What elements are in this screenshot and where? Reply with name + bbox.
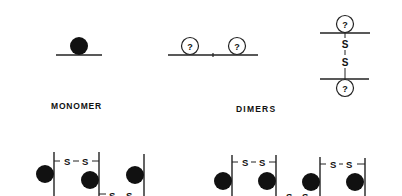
sulfur-symbol: S: [126, 190, 132, 196]
dimer-side-by-side: ? ?: [168, 38, 258, 58]
unknown-symbol: ?: [342, 20, 348, 30]
unknown-symbol: ?: [342, 84, 348, 94]
sulfur-symbol: S: [302, 191, 308, 196]
filled-circle-icon: [70, 37, 88, 55]
sulfur-symbol: S: [286, 191, 292, 196]
sulfur-symbol: S: [242, 157, 248, 168]
unknown-symbol: ?: [234, 42, 240, 52]
polymer-chain-right: S S S S S S: [214, 155, 365, 196]
sulfur-symbol: S: [82, 156, 88, 167]
monomer-label: MONOMER: [51, 101, 102, 111]
sulfur-symbol: S: [346, 159, 352, 170]
polymer-chain-left: S S S S: [36, 152, 144, 196]
dimers-label: DIMERS: [236, 104, 276, 114]
filled-circle-icon: [36, 165, 54, 183]
filled-circle-icon: [302, 173, 320, 191]
filled-circle-icon: [81, 171, 99, 189]
disulfide-polymer-diagram: MONOMER ? ? ? S S ? DIMERS S S: [0, 0, 402, 196]
sulfur-symbol: S: [330, 159, 336, 170]
sulfur-symbol: S: [342, 57, 349, 68]
sulfur-symbol: S: [64, 156, 70, 167]
monomer-figure: [56, 37, 102, 55]
filled-circle-icon: [214, 172, 232, 190]
dimer-disulfide-linked: ? S S ?: [320, 16, 370, 97]
sulfur-symbol: S: [342, 39, 349, 50]
unknown-symbol: ?: [187, 42, 193, 52]
filled-circle-icon: [346, 173, 364, 191]
filled-circle-icon: [126, 166, 144, 184]
sulfur-symbol: S: [259, 157, 265, 168]
sulfur-symbol: S: [109, 190, 115, 196]
filled-circle-icon: [258, 172, 276, 190]
